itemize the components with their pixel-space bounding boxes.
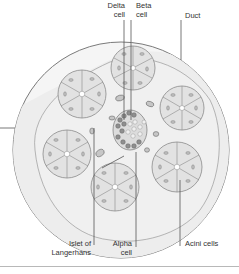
acinus-bottom bbox=[91, 163, 139, 211]
label-islet-line1: Islet of bbox=[40, 239, 91, 248]
label-delta-line1: Delta bbox=[100, 1, 125, 10]
label-islet-of-langerhans: Islet of Langerhans bbox=[40, 239, 91, 257]
islet-of-langerhans bbox=[113, 110, 147, 150]
acinus-top bbox=[111, 46, 155, 90]
acinus-left-bottom bbox=[43, 130, 91, 178]
label-delta-line2: cell bbox=[100, 10, 125, 19]
acinus-right-bottom bbox=[152, 142, 202, 192]
label-islet-line2: Langerhans bbox=[40, 248, 91, 257]
label-beta-line2: cell bbox=[136, 10, 151, 19]
label-alpha-cell: Alpha cell bbox=[104, 239, 132, 257]
pancreas-diagram bbox=[0, 0, 239, 274]
label-beta-cell: Beta cell bbox=[136, 1, 151, 19]
acinus-right bbox=[160, 86, 204, 130]
label-duct: Duct bbox=[185, 11, 200, 20]
label-alpha-line1: Alpha bbox=[104, 239, 132, 248]
label-beta-line1: Beta bbox=[136, 1, 151, 10]
bottom-divider bbox=[0, 266, 239, 267]
acinus-left-top bbox=[58, 70, 106, 118]
label-alpha-line2: cell bbox=[104, 248, 132, 257]
label-acini-cells: Acini cells bbox=[185, 239, 218, 248]
